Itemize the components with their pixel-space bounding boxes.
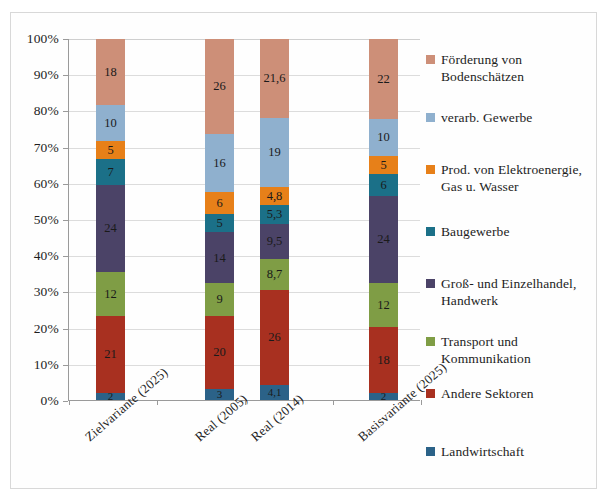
legend-label: Baugewerbe bbox=[441, 223, 509, 240]
legend-label: Andere Sektoren bbox=[441, 385, 534, 402]
bar-column[interactable]: 4,1268,79,55,34,81921,6 bbox=[260, 39, 289, 400]
bar-segment-value: 8,7 bbox=[267, 268, 283, 281]
bar-segment-value: 4,8 bbox=[267, 189, 283, 202]
bar-segment[interactable]: 4,8 bbox=[260, 187, 289, 205]
bar-segment-value: 12 bbox=[377, 298, 390, 311]
plot-area: 22112247510183209145616264,1268,79,55,34… bbox=[68, 39, 420, 401]
bar-segment[interactable]: 10 bbox=[369, 119, 398, 155]
legend-swatch bbox=[426, 447, 435, 456]
y-axis-tick bbox=[63, 401, 68, 402]
y-axis-tick bbox=[63, 292, 68, 293]
bar-segment[interactable]: 8,7 bbox=[260, 259, 289, 291]
y-axis-label: 80% bbox=[34, 103, 59, 119]
chart-frame: 22112247510183209145616264,1268,79,55,34… bbox=[10, 12, 597, 489]
legend-label: Transport undKommunikation bbox=[441, 333, 531, 368]
legend-item[interactable]: Förderung vonBodenschätzen bbox=[426, 51, 602, 86]
bar-segment[interactable]: 14 bbox=[205, 232, 234, 283]
bar-segment[interactable]: 7 bbox=[96, 159, 125, 185]
bar-segment[interactable]: 12 bbox=[369, 283, 398, 327]
bar-segment-value: 6 bbox=[216, 196, 222, 209]
bar-column[interactable]: 320914561626 bbox=[205, 39, 234, 400]
y-axis-tick bbox=[63, 256, 68, 257]
bar-column[interactable]: 2211224751018 bbox=[96, 39, 125, 400]
bar-segment-value: 21,6 bbox=[264, 72, 286, 85]
bar-segment-value: 5 bbox=[216, 216, 222, 229]
y-axis-label: 0% bbox=[41, 393, 59, 409]
y-axis-label: 90% bbox=[34, 67, 59, 83]
bar-segment-value: 10 bbox=[104, 116, 117, 129]
bar-segment-value: 24 bbox=[377, 233, 390, 246]
bar-segment[interactable]: 9 bbox=[205, 283, 234, 316]
bar-segment-value: 2 bbox=[108, 393, 114, 400]
legend-swatch bbox=[426, 113, 435, 122]
bar-segment-value: 22 bbox=[377, 72, 390, 85]
legend-item[interactable]: Baugewerbe bbox=[426, 223, 602, 240]
x-axis-tick bbox=[421, 400, 422, 405]
bar-segment[interactable]: 26 bbox=[205, 39, 234, 134]
y-axis-tick bbox=[63, 39, 68, 40]
bar-segment[interactable]: 5 bbox=[96, 141, 125, 159]
bar-segment[interactable]: 18 bbox=[96, 39, 125, 105]
y-axis-label: 50% bbox=[34, 212, 59, 228]
bar-segment[interactable]: 21,6 bbox=[260, 39, 289, 118]
y-axis-label: 60% bbox=[34, 176, 59, 192]
bar-segment[interactable]: 5 bbox=[205, 214, 234, 232]
x-axis-tick bbox=[69, 400, 70, 405]
y-axis-label: 40% bbox=[34, 248, 59, 264]
plot-container: 22112247510183209145616264,1268,79,55,34… bbox=[68, 39, 420, 401]
bar-segment[interactable]: 19 bbox=[260, 118, 289, 187]
bar-column[interactable]: 2181224651022 bbox=[369, 39, 398, 400]
bar-segment[interactable]: 3 bbox=[205, 389, 234, 400]
bar-segment[interactable]: 6 bbox=[369, 174, 398, 196]
legend-item[interactable]: Andere Sektoren bbox=[426, 385, 602, 402]
y-axis-tick bbox=[63, 148, 68, 149]
bar-segment[interactable]: 4,1 bbox=[260, 385, 289, 400]
bar-segment-value: 21 bbox=[104, 348, 117, 361]
y-axis-tick bbox=[63, 184, 68, 185]
bar-segment[interactable]: 22 bbox=[369, 39, 398, 119]
legend-item[interactable]: Landwirtschaft bbox=[426, 443, 602, 460]
y-axis-label: 70% bbox=[34, 140, 59, 156]
bar-segment-value: 18 bbox=[104, 65, 117, 78]
bar-segment[interactable]: 9,5 bbox=[260, 224, 289, 259]
bar-segment[interactable]: 24 bbox=[96, 185, 125, 273]
bar-segment[interactable]: 6 bbox=[205, 192, 234, 214]
bar-segment[interactable]: 10 bbox=[96, 105, 125, 141]
bar-segment[interactable]: 18 bbox=[369, 327, 398, 393]
legend-label: Landwirtschaft bbox=[441, 443, 524, 460]
bar-segment[interactable]: 26 bbox=[260, 290, 289, 385]
bar-segment-value: 26 bbox=[213, 80, 226, 93]
bar-segment-value: 2 bbox=[381, 393, 387, 400]
x-axis-tick bbox=[333, 400, 334, 405]
bar-segment[interactable]: 12 bbox=[96, 272, 125, 316]
legend-item[interactable]: verarb. Gewerbe bbox=[426, 109, 602, 126]
y-axis-label: 10% bbox=[34, 357, 59, 373]
y-axis-label: 20% bbox=[34, 321, 59, 337]
legend-label: Groß- und Einzelhandel,Handwerk bbox=[441, 275, 576, 310]
y-axis-tick bbox=[63, 75, 68, 76]
y-axis-tick bbox=[63, 329, 68, 330]
legend-swatch bbox=[426, 337, 435, 346]
bar-segment[interactable]: 20 bbox=[205, 316, 234, 389]
bar-segment[interactable]: 24 bbox=[369, 196, 398, 284]
bar-segment-value: 5,3 bbox=[267, 208, 283, 221]
legend-item[interactable]: Groß- und Einzelhandel,Handwerk bbox=[426, 275, 602, 310]
legend-label: verarb. Gewerbe bbox=[441, 109, 532, 126]
bar-segment-value: 24 bbox=[104, 222, 117, 235]
y-axis-tick bbox=[63, 111, 68, 112]
x-axis-tick bbox=[157, 400, 158, 405]
y-axis-tick bbox=[63, 220, 68, 221]
bar-segment-value: 5 bbox=[107, 144, 113, 157]
legend-swatch bbox=[426, 55, 435, 64]
bar-segment-value: 5 bbox=[380, 158, 386, 171]
bar-segment[interactable]: 16 bbox=[205, 134, 234, 192]
bar-segment[interactable]: 5,3 bbox=[260, 205, 289, 224]
legend-item[interactable]: Prod. von Elektroenergie,Gas u. Wasser bbox=[426, 161, 602, 196]
y-axis-tick bbox=[63, 365, 68, 366]
legend-item[interactable]: Transport undKommunikation bbox=[426, 333, 602, 368]
bar-segment[interactable]: 21 bbox=[96, 316, 125, 393]
bar-segment-value: 10 bbox=[377, 131, 390, 144]
bar-segment[interactable]: 5 bbox=[369, 156, 398, 174]
legend-swatch bbox=[426, 279, 435, 288]
bar-segment-value: 14 bbox=[213, 251, 226, 264]
